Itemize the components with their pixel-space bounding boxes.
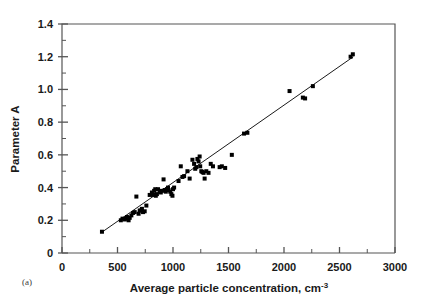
data-point-marker bbox=[143, 209, 147, 213]
data-point-marker bbox=[203, 177, 207, 181]
data-point-marker bbox=[162, 177, 166, 181]
data-point-marker bbox=[230, 153, 234, 157]
x-tick-label: 0 bbox=[59, 261, 65, 273]
data-point-marker bbox=[188, 177, 192, 181]
scatter-chart: 050010001500200025003000 00.20.40.60.81.… bbox=[0, 0, 423, 307]
x-tick-label: 1500 bbox=[216, 261, 240, 273]
data-point-marker bbox=[190, 158, 194, 162]
data-point-marker bbox=[194, 165, 198, 169]
data-point-marker bbox=[172, 186, 176, 190]
data-point-marker bbox=[177, 179, 181, 183]
data-point-marker bbox=[198, 164, 202, 168]
x-tick-label: 1000 bbox=[161, 261, 185, 273]
x-tick-label: 2000 bbox=[272, 261, 296, 273]
y-tick-label: 0 bbox=[47, 247, 53, 259]
data-point-marker bbox=[144, 204, 148, 208]
x-axis-title-superscript: -3 bbox=[321, 281, 329, 290]
data-point-marker bbox=[288, 89, 292, 93]
data-point-marker bbox=[245, 131, 249, 135]
data-point-marker bbox=[311, 84, 315, 88]
x-tick-label: 3000 bbox=[383, 261, 407, 273]
x-tick-label: 500 bbox=[108, 261, 126, 273]
data-point-marker bbox=[211, 164, 215, 168]
y-tick-label: 1.0 bbox=[38, 83, 53, 95]
x-axis-title: Average particle concentration, cm-3 bbox=[130, 281, 329, 294]
data-point-marker bbox=[351, 52, 355, 56]
y-tick-label: 0.2 bbox=[38, 214, 53, 226]
y-tick-label: 0.8 bbox=[38, 116, 53, 128]
data-point-marker bbox=[170, 194, 174, 198]
y-tick-label: 0.4 bbox=[38, 182, 54, 194]
x-tick-label: 2500 bbox=[327, 261, 351, 273]
data-point-marker bbox=[197, 159, 201, 163]
data-point-marker bbox=[134, 195, 138, 199]
data-point-marker bbox=[179, 164, 183, 168]
data-point-marker bbox=[207, 171, 211, 175]
y-tick-label: 1.2 bbox=[38, 51, 53, 63]
data-point-marker bbox=[182, 174, 186, 178]
y-axis-title: Parameter A bbox=[9, 105, 21, 172]
data-point-marker bbox=[198, 154, 202, 158]
data-point-marker bbox=[185, 169, 189, 173]
data-point-marker bbox=[100, 230, 104, 234]
data-point-marker bbox=[303, 96, 307, 100]
y-tick-label: 0.6 bbox=[38, 149, 53, 161]
panel-label: (a) bbox=[22, 277, 32, 287]
x-axis-title-main: Average particle concentration, cm bbox=[130, 282, 321, 294]
figure-panel: 050010001500200025003000 00.20.40.60.81.… bbox=[0, 0, 423, 307]
y-tick-label: 1.4 bbox=[38, 18, 54, 30]
data-point-marker bbox=[133, 210, 137, 214]
data-point-marker bbox=[223, 166, 227, 170]
